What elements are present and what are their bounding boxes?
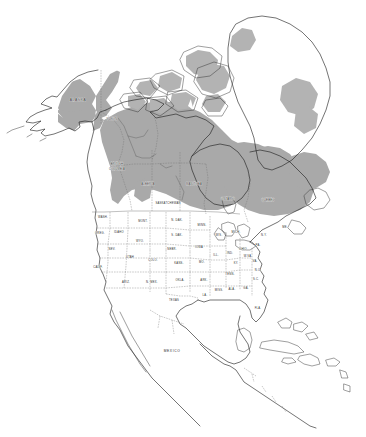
label-tennessee: TENN. [225, 272, 234, 276]
label-nevada: NEV. [108, 247, 115, 251]
label-idaho: IDAHO [114, 230, 124, 234]
label-west-virginia: W.VA. [244, 254, 253, 258]
label-quebec: QUEBEC [262, 198, 275, 202]
label-wyoming: WYO. [136, 239, 144, 243]
label-california: CALIF. [93, 265, 103, 269]
label-ohio: OHIO [239, 247, 247, 251]
label-british-columbia-2: COLUMBIA [109, 167, 125, 171]
label-wisconsin: WIS. [216, 233, 223, 237]
label-georgia: GA. [243, 286, 248, 290]
label-ontario: ONTARIO [221, 197, 235, 201]
label-washington: WASH. [98, 215, 108, 219]
label-mississippi: MISS. [215, 288, 224, 292]
country-labels-group: MEXICO [164, 349, 181, 353]
label-north-dakota: N. DAK. [171, 218, 182, 222]
label-texas: TEXAS [169, 298, 179, 302]
label-oklahoma: OKLA. [175, 278, 184, 282]
label-florida: FLA. [255, 306, 262, 310]
label-alaska: ALASKA [70, 98, 87, 102]
label-new-york: N.Y. [261, 233, 267, 237]
label-manitoba: MANITOBA [186, 182, 202, 186]
label-mexico: MEXICO [164, 349, 181, 353]
north-america-map[interactable]: ALASKAYUKONBRITISHCOLUMBIAALBERTASASKATC… [0, 0, 366, 437]
label-nebraska: NEBR. [167, 247, 176, 251]
label-louisiana: LA. [203, 293, 208, 297]
label-oregon: OREG. [95, 231, 105, 235]
label-maine: ME. [282, 225, 288, 229]
label-saskatchewan: SASKATCHEWAN [155, 201, 180, 205]
label-new-mexico: N. MEX. [146, 280, 158, 284]
label-michigan: MICH. [232, 230, 241, 234]
label-montana: MONT. [138, 219, 148, 223]
map-background [0, 0, 366, 437]
label-illinois: ILL. [213, 253, 218, 257]
label-arizona: ARIZ. [122, 280, 130, 284]
label-utah: UTAH [126, 255, 134, 259]
label-colorado: COLO. [148, 258, 158, 262]
label-south-carolina: S.C. [253, 277, 259, 281]
label-alberta: ALBERTA [141, 182, 155, 186]
label-indiana: IND. [227, 251, 233, 255]
label-missouri: MO. [199, 260, 205, 264]
label-british-columbia-1: BRITISH [111, 162, 123, 166]
label-kansas: KANS. [174, 261, 183, 265]
label-alabama: ALA. [229, 287, 236, 291]
label-south-dakota: S. DAK. [171, 233, 182, 237]
label-iowa: IOWA [195, 245, 203, 249]
label-virginia: VA. [253, 259, 258, 263]
label-minnesota: MINN. [198, 223, 207, 227]
range-map-figure: ALASKAYUKONBRITISHCOLUMBIAALBERTASASKATC… [0, 0, 366, 437]
label-arkansas: ARK. [200, 278, 207, 282]
label-north-carolina: N.C. [255, 268, 261, 272]
label-kentucky: KY. [234, 261, 239, 265]
label-pennsylvania: PA. [256, 243, 261, 247]
label-yukon: YUKON [107, 117, 118, 121]
